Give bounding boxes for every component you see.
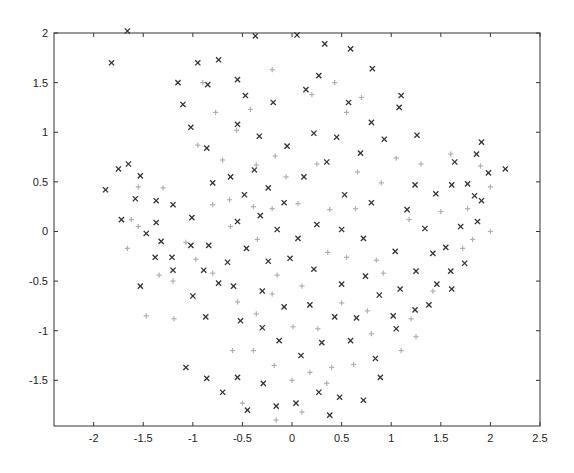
- x-marker: [188, 125, 193, 130]
- x-marker: [188, 243, 193, 248]
- x-marker: [398, 286, 403, 291]
- plus-marker: [255, 237, 260, 242]
- plus-marker: [394, 155, 399, 160]
- x-marker: [159, 239, 164, 244]
- x-marker: [339, 281, 344, 286]
- x-tick-label: -2: [89, 432, 99, 444]
- x-marker: [183, 365, 188, 370]
- x-marker: [284, 144, 289, 149]
- x-marker: [474, 151, 479, 156]
- x-marker: [391, 313, 396, 318]
- x-marker: [260, 288, 265, 293]
- x-marker: [138, 173, 143, 178]
- x-marker: [397, 105, 402, 110]
- plus-marker: [270, 291, 275, 296]
- x-marker: [339, 227, 344, 232]
- plus-marker: [355, 169, 360, 174]
- x-tick-label: 0: [289, 432, 295, 444]
- plus-marker: [200, 80, 205, 85]
- x-marker: [332, 314, 337, 319]
- x-marker: [205, 82, 210, 87]
- plus-marker: [251, 204, 256, 209]
- plus-marker: [406, 217, 411, 222]
- plus-marker: [369, 331, 374, 336]
- x-marker: [337, 395, 342, 400]
- x-tick-label: 2.5: [532, 432, 547, 444]
- x-marker: [245, 408, 250, 413]
- plus-marker: [210, 271, 215, 276]
- plus-marker: [240, 401, 245, 406]
- plus-marker: [193, 257, 198, 262]
- x-marker: [228, 174, 233, 179]
- plus-marker: [213, 110, 218, 115]
- y-tick-label: 1.5: [33, 77, 48, 89]
- x-marker: [422, 226, 427, 231]
- x-marker: [244, 246, 249, 251]
- plus-marker: [488, 229, 493, 234]
- x-marker: [399, 93, 404, 98]
- x-marker: [324, 159, 329, 164]
- x-marker: [238, 318, 243, 323]
- x-tick-label: -1.5: [134, 432, 153, 444]
- x-marker: [412, 182, 417, 187]
- x-marker: [486, 170, 491, 175]
- x-marker: [382, 137, 387, 142]
- x-tick-label: 1: [388, 432, 394, 444]
- x-marker: [216, 57, 221, 62]
- plus-marker: [344, 110, 349, 115]
- plus-marker: [248, 107, 253, 112]
- plus-marker: [379, 180, 384, 185]
- plus-marker: [274, 417, 279, 422]
- plus-marker: [129, 217, 134, 222]
- x-marker: [220, 390, 225, 395]
- x-marker: [316, 390, 321, 395]
- x-marker: [298, 353, 303, 358]
- x-marker: [282, 304, 287, 309]
- x-marker: [311, 267, 316, 272]
- plus-marker: [220, 157, 225, 162]
- plus-marker: [315, 326, 320, 331]
- x-marker: [449, 182, 454, 187]
- plus-marker: [157, 273, 162, 278]
- x-marker: [363, 274, 368, 279]
- x-marker: [257, 134, 262, 139]
- x-marker: [430, 251, 435, 256]
- plot-points: [103, 28, 508, 422]
- x-marker: [348, 46, 353, 51]
- x-marker: [404, 207, 409, 212]
- x-marker: [235, 122, 240, 127]
- x-tick-label: 0.5: [334, 432, 349, 444]
- x-marker: [301, 174, 306, 179]
- x-marker: [303, 87, 308, 92]
- x-marker: [275, 227, 280, 232]
- x-marker: [287, 256, 292, 261]
- x-marker: [206, 243, 211, 248]
- x-marker: [311, 131, 316, 136]
- plus-marker: [234, 128, 239, 133]
- plus-marker: [465, 206, 470, 211]
- x-marker: [153, 255, 158, 260]
- x-marker: [261, 381, 266, 386]
- plus-marker: [339, 300, 344, 305]
- plus-marker: [374, 258, 379, 263]
- plus-marker: [314, 161, 319, 166]
- plus-marker: [170, 279, 175, 284]
- x-marker: [266, 259, 271, 264]
- x-marker: [204, 146, 209, 151]
- plus-marker: [381, 271, 386, 276]
- plus-marker: [408, 316, 413, 321]
- plus-marker: [136, 224, 141, 229]
- x-marker: [235, 77, 240, 82]
- y-tick-label: 1: [42, 126, 48, 138]
- plus-marker: [290, 324, 295, 329]
- y-tick-label: 0: [42, 225, 48, 237]
- x-marker: [361, 236, 366, 241]
- x-marker: [231, 283, 236, 288]
- x-marker: [413, 269, 418, 274]
- x-marker: [358, 150, 363, 155]
- plus-marker: [230, 348, 235, 353]
- x-marker: [258, 213, 263, 218]
- plus-marker: [183, 240, 188, 245]
- x-marker: [235, 375, 240, 380]
- x-marker: [369, 120, 374, 125]
